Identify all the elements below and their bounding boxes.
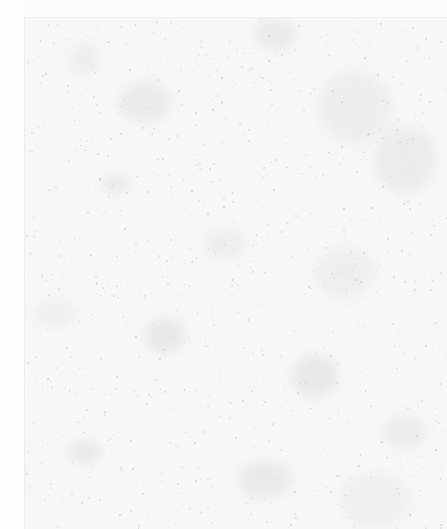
scan-speck [257,478,258,479]
scan-speck [151,220,153,222]
scan-speck [261,350,263,352]
scan-speck [99,299,100,300]
scan-speck [310,190,312,192]
scan-speck [268,310,269,311]
scan-speck [107,247,109,249]
scan-speck [51,386,53,388]
scan-speck [344,484,345,485]
scan-speck [78,381,80,383]
scan-speck [67,278,68,279]
scan-speck [123,329,125,331]
scan-speck [305,154,307,156]
scan-speck [171,271,173,273]
scan-speck [129,501,130,502]
scan-speck [358,324,360,326]
scan-speck [174,229,176,231]
scan-speck [441,48,442,49]
scan-speck [201,405,202,406]
scan-speck [99,178,101,180]
scan-speck [262,246,264,248]
scan-speck [207,478,209,480]
scan-speck [326,380,327,381]
scan-speck [252,367,253,368]
scan-speck [416,51,417,52]
scan-speck [259,304,260,305]
scan-speck [443,80,444,81]
scan-speck [290,524,292,526]
scan-speck [328,418,329,419]
scan-speck [292,244,293,245]
scan-speck [289,397,290,398]
scan-speck [350,219,352,221]
scan-speck [207,507,209,509]
scan-speck [189,360,190,361]
scan-speck [138,356,140,358]
scan-speck [424,273,425,274]
scan-speck [164,39,166,41]
scan-speck [184,209,185,210]
scan-speck [36,231,38,233]
scan-speck [399,177,400,178]
scan-speck [438,364,439,365]
scan-speck [180,69,182,71]
scan-speck [199,383,200,384]
scan-speck [192,71,193,72]
scan-speck [58,526,60,528]
scan-speck [431,519,432,520]
scan-speck [44,439,45,440]
scan-speck [151,133,153,135]
scan-speck [119,437,120,438]
scan-speck [155,507,156,508]
scan-speck [239,312,240,313]
scan-speck [262,354,264,356]
scan-speck [90,305,91,306]
scan-speck [322,174,324,176]
scan-speck [298,295,299,296]
scan-speck [47,408,49,410]
scan-speck [99,112,101,114]
scan-speck [52,522,53,523]
scan-speck [258,342,260,344]
scan-speck [295,189,296,190]
scan-speck [377,461,378,462]
scan-speck [349,517,350,518]
scan-speck [426,337,427,338]
scan-speck [160,266,161,267]
scan-speck [241,66,243,68]
scan-speck [356,171,358,173]
scan-speck [168,138,170,140]
scan-speck [396,368,398,370]
scan-speck [156,21,158,23]
scan-speck [241,344,242,345]
scan-speck [69,390,70,391]
scan-speck [256,243,257,244]
scan-speck [45,280,47,282]
scan-speck [177,488,178,489]
scan-speck [313,88,315,90]
scan-speck [309,417,311,419]
scan-speck [211,485,213,487]
scan-speck [355,177,356,178]
scan-speck [280,276,281,277]
scan-speck [145,44,146,45]
scan-speck [48,294,50,296]
scan-speck [360,454,362,456]
scan-speck [149,75,150,76]
scan-speck [29,484,30,485]
scan-speck [157,175,158,176]
scan-speck [284,386,286,388]
scan-speck [47,378,49,380]
scan-speck [402,112,403,113]
scan-speck [280,355,281,356]
scan-speck [294,513,296,515]
scan-speck [416,435,418,437]
scan-speck [198,522,199,523]
scan-speck [286,167,288,169]
scan-speck [107,41,109,43]
scan-speck [194,75,196,77]
scan-speck [248,519,249,520]
scan-speck [366,375,367,376]
scan-speck [265,58,266,59]
scan-speck [432,102,434,104]
scan-speck [419,490,421,492]
